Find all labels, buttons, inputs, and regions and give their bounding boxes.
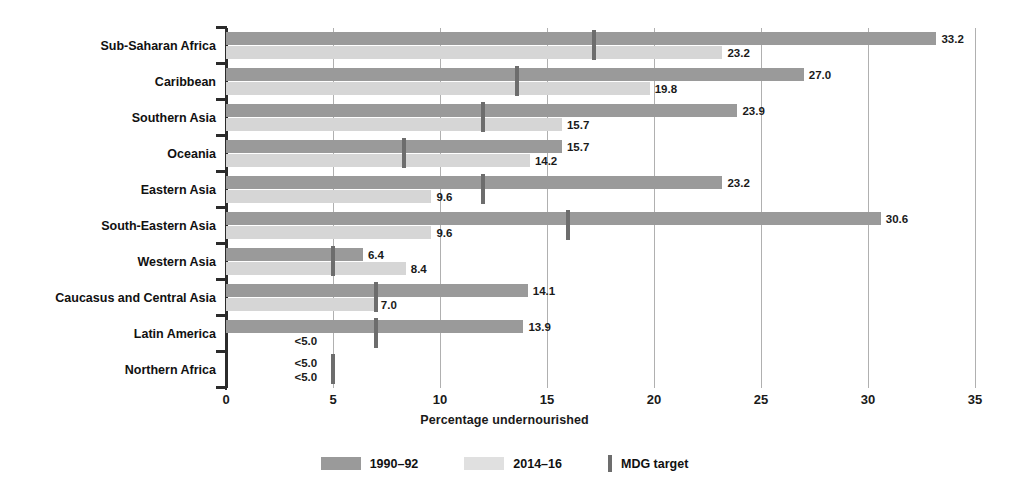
legend-swatch-icon <box>321 457 361 470</box>
x-tick-label-15: 15 <box>540 392 554 407</box>
bar-1990-92 <box>226 32 936 45</box>
x-axis-title: Percentage undernourished <box>0 413 1009 427</box>
mdg-target-marker <box>481 174 485 204</box>
bar-value-label: 19.8 <box>655 83 677 95</box>
legend-item: MDG target <box>608 455 688 472</box>
bar-2014-16 <box>226 262 406 275</box>
bar-1990-92 <box>226 248 363 261</box>
legend-label: 2014–16 <box>513 457 562 471</box>
bar-1990-92 <box>226 176 722 189</box>
x-tick-label-0: 0 <box>222 392 229 407</box>
bar-2014-16 <box>226 118 562 131</box>
mdg-target-marker <box>374 318 378 348</box>
mdg-target-marker <box>402 138 406 168</box>
bar-value-label: 15.7 <box>567 119 589 131</box>
mdg-target-marker <box>331 354 335 384</box>
bar-value-label: 27.0 <box>809 69 831 81</box>
category-label: Southern Asia <box>0 111 216 125</box>
bar-value-label: 33.2 <box>941 33 963 45</box>
bar-value-label: <5.0 <box>294 371 317 383</box>
bar-value-label: <5.0 <box>294 335 317 347</box>
category-label: South-Eastern Asia <box>0 219 216 233</box>
bar-value-label: 23.2 <box>727 47 749 59</box>
bar-value-label: <5.0 <box>294 357 317 369</box>
mdg-target-marker <box>515 66 519 96</box>
bar-value-label: 6.4 <box>368 249 384 261</box>
bar-value-label: 8.4 <box>411 263 427 275</box>
x-tick-label-5: 5 <box>329 392 336 407</box>
gridline-25 <box>761 28 762 388</box>
category-label: Oceania <box>0 147 216 161</box>
bar-2014-16 <box>226 46 722 59</box>
category-label: Western Asia <box>0 255 216 269</box>
legend-label: MDG target <box>621 457 688 471</box>
legend-swatch-icon <box>464 457 504 470</box>
gridline-30 <box>868 28 869 388</box>
bar-value-label: 15.7 <box>567 141 589 153</box>
bar-2014-16 <box>226 82 650 95</box>
mdg-target-marker <box>331 246 335 276</box>
category-label: Caribbean <box>0 75 216 89</box>
mdg-target-marker <box>374 282 378 312</box>
category-label: Caucasus and Central Asia <box>0 291 216 305</box>
mdg-target-marker <box>566 210 570 240</box>
bar-value-label: 14.2 <box>535 155 557 167</box>
category-label: Eastern Asia <box>0 183 216 197</box>
x-tick-label-20: 20 <box>647 392 661 407</box>
category-label: Latin America <box>0 327 216 341</box>
gridline-35 <box>975 28 976 388</box>
chart-legend: 1990–922014–16MDG target <box>0 455 1009 472</box>
bar-value-label: 9.6 <box>436 191 452 203</box>
x-tick-label-25: 25 <box>754 392 768 407</box>
legend-label: 1990–92 <box>370 457 419 471</box>
bar-value-label: 23.9 <box>742 105 764 117</box>
category-label: Sub-Saharan Africa <box>0 39 216 53</box>
plot-area: 33.223.227.019.823.915.715.714.223.29.63… <box>226 28 975 388</box>
bar-value-label: 30.6 <box>886 213 908 225</box>
x-tick-label-30: 30 <box>861 392 875 407</box>
bar-value-label: 13.9 <box>528 321 550 333</box>
bar-2014-16 <box>226 298 376 311</box>
legend-item: 2014–16 <box>464 457 562 471</box>
bar-1990-92 <box>226 140 562 153</box>
x-tick-label-35: 35 <box>968 392 982 407</box>
bar-value-label: 9.6 <box>436 227 452 239</box>
mdg-target-marker <box>592 30 596 60</box>
bar-2014-16 <box>226 190 431 203</box>
bar-value-label: 7.0 <box>381 299 397 311</box>
category-label: Northern Africa <box>0 363 216 377</box>
bar-value-label: 14.1 <box>533 285 555 297</box>
bar-2014-16 <box>226 226 431 239</box>
bar-value-label: 23.2 <box>727 177 749 189</box>
legend-swatch-icon <box>608 455 612 472</box>
undernourishment-bar-chart: Sub-Saharan AfricaCaribbeanSouthern Asia… <box>0 0 1009 502</box>
legend-item: 1990–92 <box>321 457 419 471</box>
mdg-target-marker <box>481 102 485 132</box>
x-tick-label-10: 10 <box>433 392 447 407</box>
gridline-20 <box>654 28 655 388</box>
bar-1990-92 <box>226 212 881 225</box>
bar-2014-16 <box>226 154 530 167</box>
